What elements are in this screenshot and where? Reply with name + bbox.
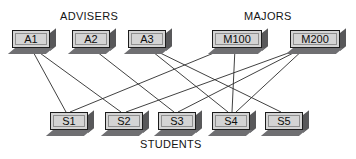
edge-a2-s3 (92, 48, 174, 112)
student-node-s1[interactable]: S1 (50, 112, 88, 130)
box-face: S4 (212, 112, 250, 130)
adviser-node-a3[interactable]: A3 (128, 30, 166, 48)
adviser-node-label: A3 (140, 34, 153, 45)
box-face: S5 (265, 112, 303, 130)
diagram-canvas: ADVISERS MAJORS STUDENTS A1A2A3M100M200S… (0, 0, 356, 159)
major-node-label: M200 (301, 34, 329, 45)
box-depth-bottom (101, 130, 146, 136)
box-depth-bottom (68, 48, 113, 54)
box-depth-bottom (124, 48, 169, 54)
student-node-label: S4 (224, 116, 237, 127)
box-face: M100 (212, 30, 262, 48)
adviser-node-label: A2 (84, 34, 97, 45)
student-node-label: S1 (62, 116, 75, 127)
edge-m200-s4 (236, 48, 305, 112)
box-depth-bottom (261, 130, 306, 136)
adviser-node-label: A1 (24, 34, 37, 45)
box-face: S3 (158, 112, 196, 130)
student-node-s3[interactable]: S3 (158, 112, 196, 130)
box-depth-bottom (286, 48, 343, 54)
edge-m200-s3 (178, 48, 303, 112)
student-node-s5[interactable]: S5 (265, 112, 303, 130)
student-node-label: S3 (170, 116, 183, 127)
edge-m200-s2 (126, 48, 302, 112)
major-node-m200[interactable]: M200 (290, 30, 340, 48)
student-node-s4[interactable]: S4 (212, 112, 250, 130)
box-face: A3 (128, 30, 166, 48)
edge-m100-s1 (70, 48, 226, 112)
major-node-m100[interactable]: M100 (212, 30, 262, 48)
box-face: S1 (50, 112, 88, 130)
box-depth-bottom (208, 48, 265, 54)
box-depth-bottom (8, 48, 53, 54)
box-face: A2 (72, 30, 110, 48)
student-node-s2[interactable]: S2 (105, 112, 143, 130)
student-node-label: S2 (117, 116, 130, 127)
box-depth-bottom (154, 130, 199, 136)
edge-m100-s4 (232, 48, 235, 112)
box-depth-bottom (208, 130, 253, 136)
box-face: M200 (290, 30, 340, 48)
box-depth-bottom (46, 130, 91, 136)
box-face: A1 (12, 30, 50, 48)
student-node-label: S5 (277, 116, 290, 127)
major-node-label: M100 (223, 34, 251, 45)
edge-a1-s1 (31, 48, 66, 112)
adviser-node-a2[interactable]: A2 (72, 30, 110, 48)
box-face: S2 (105, 112, 143, 130)
adviser-node-a1[interactable]: A1 (12, 30, 50, 48)
edge-a1-s2 (33, 48, 121, 112)
